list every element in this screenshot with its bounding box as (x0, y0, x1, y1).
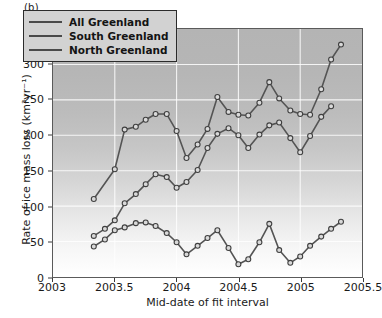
data-point-marker (226, 109, 231, 114)
data-point-marker (288, 136, 293, 141)
data-point-marker (174, 185, 179, 190)
data-point-marker (91, 233, 96, 238)
y-tick-label: 250 (0, 93, 44, 106)
data-point-marker (164, 231, 169, 236)
series-all-greenland (91, 42, 343, 201)
data-point-marker (112, 228, 117, 233)
data-point-marker (215, 95, 220, 100)
data-point-marker (288, 260, 293, 265)
x-tick-label: 2005.5 (344, 281, 382, 294)
data-point-marker (226, 245, 231, 250)
data-point-marker (102, 226, 107, 231)
data-point-marker (246, 146, 251, 151)
legend-line-swatch (29, 35, 62, 37)
legend-label: South Greenland (69, 30, 169, 42)
data-point-marker (308, 134, 313, 139)
data-point-marker (267, 221, 272, 226)
data-point-marker (102, 237, 107, 242)
data-point-marker (205, 146, 210, 151)
data-point-marker (277, 120, 282, 125)
x-tick-label: 2003.5 (95, 281, 134, 294)
data-point-marker (226, 126, 231, 131)
data-point-marker (215, 228, 220, 233)
legend-item-all-greenland[interactable]: All Greenland (29, 15, 169, 29)
data-point-marker (184, 155, 189, 160)
y-tick-label: 50 (0, 236, 44, 249)
data-point-marker (174, 129, 179, 134)
data-point-marker (319, 114, 324, 119)
data-point-marker (298, 112, 303, 117)
data-point-marker (236, 133, 241, 138)
legend-item-south-greenland[interactable]: South Greenland (29, 29, 169, 43)
x-tick-label: 2005 (287, 281, 315, 294)
data-point-marker (153, 112, 158, 117)
data-point-marker (257, 100, 262, 105)
data-point-marker (184, 180, 189, 185)
data-point-marker (112, 218, 117, 223)
data-point-marker (257, 240, 262, 245)
data-point-marker (257, 132, 262, 137)
x-tick-mark (52, 278, 53, 282)
data-point-marker (329, 57, 334, 62)
data-point-marker (319, 87, 324, 92)
data-point-marker (246, 113, 251, 118)
data-point-marker (277, 96, 282, 101)
data-point-marker (122, 127, 127, 132)
data-point-marker (205, 236, 210, 241)
y-tick-label: 150 (0, 164, 44, 177)
data-point-marker (153, 172, 158, 177)
legend-line-swatch (29, 21, 62, 23)
data-point-marker (288, 108, 293, 113)
data-point-marker (339, 219, 344, 224)
data-point-marker (329, 104, 334, 109)
data-point-marker (164, 112, 169, 117)
legend-item-north-greenland[interactable]: North Greenland (29, 43, 169, 57)
data-point-marker (236, 112, 241, 117)
series-line (94, 45, 341, 199)
data-point-marker (122, 201, 127, 206)
data-point-marker (143, 117, 148, 122)
data-point-marker (267, 123, 272, 128)
x-tick-label: 2004.5 (219, 281, 258, 294)
legend-line-swatch (29, 49, 62, 51)
x-tick-mark (176, 278, 177, 282)
data-point-marker (195, 243, 200, 248)
series-north-greenland (91, 219, 343, 266)
y-tick-label: 200 (0, 129, 44, 142)
data-point-marker (153, 224, 158, 229)
data-point-marker (91, 197, 96, 202)
legend-label: All Greenland (69, 16, 149, 28)
data-point-marker (112, 167, 117, 172)
data-point-marker (133, 221, 138, 226)
data-point-marker (298, 254, 303, 259)
data-point-marker (195, 168, 200, 173)
data-point-marker (319, 234, 324, 239)
x-axis-label: Mid-date of fit interval (52, 296, 363, 309)
data-point-marker (215, 131, 220, 136)
data-point-marker (205, 126, 210, 131)
x-tick-mark (114, 278, 115, 282)
x-tick-label: 2004 (162, 281, 190, 294)
data-point-marker (143, 182, 148, 187)
data-point-marker (308, 112, 313, 117)
data-point-marker (339, 42, 344, 47)
data-point-marker (329, 226, 334, 231)
data-point-marker (308, 243, 313, 248)
x-tick-label: 2003 (38, 281, 66, 294)
data-point-marker (133, 192, 138, 197)
data-point-marker (164, 175, 169, 180)
chart-canvas (53, 29, 362, 277)
data-point-marker (277, 248, 282, 253)
data-point-marker (195, 142, 200, 147)
data-point-marker (298, 150, 303, 155)
data-point-marker (236, 262, 241, 267)
data-point-marker (122, 225, 127, 230)
x-tick-mark (239, 278, 240, 282)
y-tick-label: 100 (0, 200, 44, 213)
chart-legend: All GreenlandSouth GreenlandNorth Greenl… (23, 10, 177, 62)
x-tick-mark (301, 278, 302, 282)
x-tick-mark (363, 278, 364, 282)
plot-area (52, 28, 363, 278)
legend-label: North Greenland (69, 44, 168, 56)
